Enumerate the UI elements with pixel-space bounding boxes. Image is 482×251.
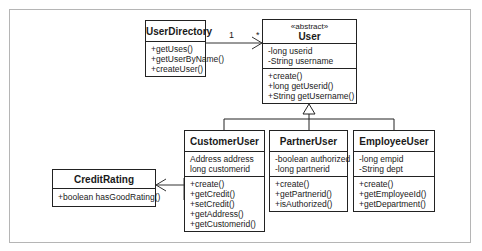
stereotype-label: «abstract» <box>263 22 356 31</box>
class-header: PartnerUser <box>270 131 347 152</box>
attributes-section: -long userid -String username <box>263 44 356 68</box>
class-name: User <box>263 31 356 42</box>
operation: +isAuthorized() <box>275 199 342 209</box>
class-header: CreditRating <box>53 170 155 189</box>
operation: +getPartnerid() <box>275 189 342 199</box>
attribute: -long userid <box>268 46 351 56</box>
operations-section: +create() +long getUserid() +String getU… <box>263 68 356 103</box>
operations-section: +create() +getEmployeeId() +getDepartmen… <box>354 176 434 211</box>
operation: +long getUserid() <box>268 81 351 91</box>
attribute: -long empid <box>359 154 429 164</box>
attribute: Address address <box>190 154 259 164</box>
attribute: long customerid <box>190 164 259 174</box>
operation: +boolean hasGoodRating() <box>58 192 150 202</box>
operation: +create() <box>275 179 342 189</box>
class-name: EmployeeUser <box>354 136 434 147</box>
attributes-section: -boolean authorized -long partnerid <box>270 152 347 176</box>
attribute: -String username <box>268 56 351 66</box>
attributes-section: -long empid -String dept <box>354 152 434 176</box>
operation: +getDepartment() <box>359 199 429 209</box>
operation: +create() <box>268 71 351 81</box>
operation: +getUses() <box>151 44 200 54</box>
class-partner-user[interactable]: PartnerUser -boolean authorized -long pa… <box>269 130 348 212</box>
operations-section: +create() +getCredit() +setCredit() +get… <box>185 176 264 231</box>
operations-section: +create() +getPartnerid() +isAuthorized(… <box>270 176 347 211</box>
operation: +String getUsername() <box>268 91 351 101</box>
multiplicity-one: 1 <box>229 30 234 40</box>
class-header: «abstract» User <box>263 20 356 44</box>
multiplicity-many: * <box>256 30 260 40</box>
attribute: -String dept <box>359 164 429 174</box>
class-name: CustomerUser <box>185 136 264 147</box>
operation: +getUserByName() <box>151 54 200 64</box>
class-name: PartnerUser <box>270 136 347 147</box>
attribute: -long partnerid <box>275 164 342 174</box>
operation: +getEmployeeId() <box>359 189 429 199</box>
operation: +createUser() <box>151 64 200 74</box>
class-credit-rating[interactable]: CreditRating +boolean hasGoodRating() <box>52 169 156 207</box>
operation: +getCredit() <box>190 189 259 199</box>
attribute: -boolean authorized <box>275 154 342 164</box>
class-employee-user[interactable]: EmployeeUser -long empid -String dept +c… <box>353 130 435 212</box>
operation: +setCredit() <box>190 199 259 209</box>
operation: +getCustomerid() <box>190 219 259 229</box>
class-header: EmployeeUser <box>354 131 434 152</box>
class-name: UserDirectory <box>146 26 205 37</box>
class-header: CustomerUser <box>185 131 264 152</box>
attributes-section: Address address long customerid <box>185 152 264 176</box>
operation: +getAddress() <box>190 209 259 219</box>
operation: +create() <box>359 179 429 189</box>
operations-section: +boolean hasGoodRating() <box>53 189 155 206</box>
operations-section: +getUses() +getUserByName() +createUser(… <box>146 42 205 76</box>
class-name: CreditRating <box>53 174 155 185</box>
class-customer-user[interactable]: CustomerUser Address address long custom… <box>184 130 265 232</box>
class-header: UserDirectory <box>146 21 205 42</box>
operation: +create() <box>190 179 259 189</box>
class-user-directory[interactable]: UserDirectory +getUses() +getUserByName(… <box>145 20 206 77</box>
class-user[interactable]: «abstract» User -long userid -String use… <box>262 19 357 104</box>
